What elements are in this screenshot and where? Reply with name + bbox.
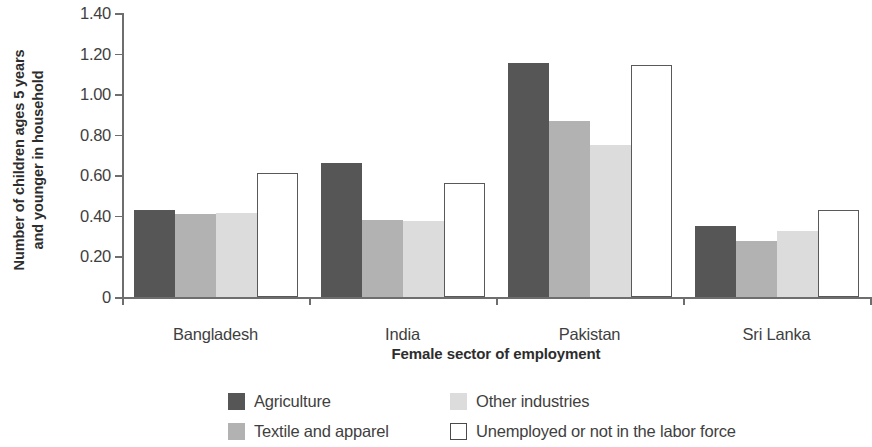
x-axis-category-label: Sri Lanka [743, 325, 811, 344]
legend-item: Other industries [450, 392, 868, 411]
y-axis-title: Number of children ages 5 years and youn… [0, 10, 58, 310]
legend-swatch-icon [228, 423, 245, 440]
y-tick-mark [115, 135, 122, 137]
legend-label: Unemployed or not in the labor force [476, 422, 736, 441]
legend-item: Agriculture [228, 392, 450, 411]
bar [257, 173, 298, 297]
bar [175, 214, 216, 297]
bar [403, 221, 444, 297]
y-tick-label: 0.60 [80, 166, 111, 185]
x-axis-category-label: Bangladesh [173, 325, 258, 344]
bar [631, 65, 672, 297]
y-tick-mark [115, 297, 122, 299]
bar-chart-figure: Number of children ages 5 years and youn… [0, 0, 872, 447]
legend-item: Textile and apparel [228, 422, 450, 441]
y-tick-label: 0.40 [80, 206, 111, 225]
x-tick-mark [496, 297, 498, 305]
legend-swatch-icon [450, 393, 467, 410]
y-tick-label: 1.00 [80, 85, 111, 104]
x-axis-category-label: Pakistan [559, 325, 621, 344]
y-tick-mark [115, 13, 122, 15]
legend-item: Unemployed or not in the labor force [450, 422, 868, 441]
y-tick-mark [115, 256, 122, 258]
bar [549, 121, 590, 297]
plot-area: 00.200.400.600.801.001.201.40 Bangladesh… [122, 13, 870, 297]
bar [818, 210, 859, 297]
bar [590, 145, 631, 297]
y-axis-title-line-1: Number of children ages 5 years [10, 50, 29, 271]
y-tick-label: 1.40 [80, 4, 111, 23]
chart-legend: AgricultureOther industriesTextile and a… [228, 386, 868, 446]
bar [777, 231, 818, 297]
x-tick-mark [683, 297, 685, 305]
bar [134, 210, 175, 297]
y-axis-title-line-2: and younger in household [29, 71, 48, 250]
x-tick-mark [309, 297, 311, 305]
legend-label: Agriculture [254, 392, 331, 411]
x-tick-mark [122, 297, 124, 305]
y-tick-mark [115, 94, 122, 96]
legend-swatch-icon [228, 393, 245, 410]
y-tick-label: 0 [102, 288, 111, 307]
legend-label: Other industries [476, 392, 589, 411]
bar [508, 63, 549, 297]
bar [695, 226, 736, 297]
bar [362, 220, 403, 297]
y-tick-mark [115, 175, 122, 177]
bar [736, 241, 777, 297]
x-tick-mark [870, 297, 872, 305]
x-axis-category-label: India [385, 325, 420, 344]
y-tick-label: 0.20 [80, 247, 111, 266]
y-tick-mark [115, 54, 122, 56]
x-axis-title: Female sector of employment [122, 345, 870, 362]
legend-label: Textile and apparel [254, 422, 389, 441]
y-tick-label: 0.80 [80, 125, 111, 144]
y-tick-mark [115, 216, 122, 218]
bars-layer [122, 13, 870, 297]
bar [216, 213, 257, 297]
bar [444, 183, 485, 297]
bar [321, 163, 362, 297]
legend-swatch-icon [450, 423, 467, 440]
y-tick-label: 1.20 [80, 44, 111, 63]
